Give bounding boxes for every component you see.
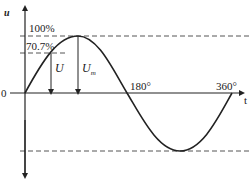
sine-wave-diagram: u t 0 100% 70.7% U Um 180° 360° [0, 0, 252, 181]
rms-value-label: U [55, 61, 65, 75]
peak-level-label: 100% [29, 22, 55, 34]
x-axis-label: t [244, 94, 247, 106]
origin-label: 0 [1, 87, 7, 99]
rms-level-label: 70.7% [26, 40, 54, 52]
y-axis-label: u [4, 7, 10, 18]
peak-value-label: Um [82, 61, 96, 77]
angle-360-label: 360° [216, 80, 237, 92]
angle-180-label: 180° [130, 80, 151, 92]
